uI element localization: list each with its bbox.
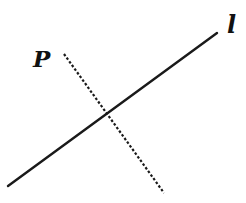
- perpendicular-from-p: [64, 54, 164, 193]
- line-l-label: l: [227, 13, 236, 37]
- point-p-label: P: [33, 47, 50, 70]
- geometry-diagram: P l: [0, 0, 246, 203]
- diagram-canvas: [0, 0, 246, 203]
